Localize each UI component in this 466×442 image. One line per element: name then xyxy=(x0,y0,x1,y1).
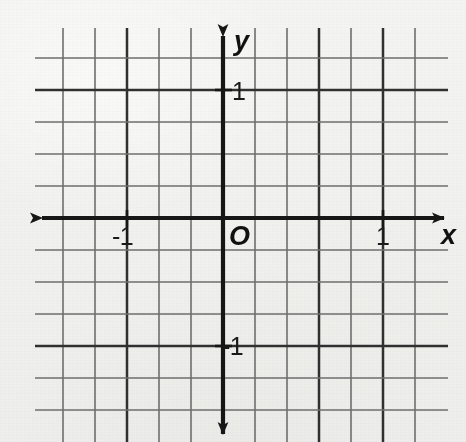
y-tick-label-negative-one: -1 xyxy=(222,334,243,359)
x-axis-label: x xyxy=(441,222,456,249)
y-tick-label-positive-one: 1 xyxy=(232,79,245,104)
coordinate-plane-figure: y x O 1 -1 1 -1 xyxy=(0,0,466,442)
origin-label: O xyxy=(229,223,250,250)
x-tick-label-positive-one: 1 xyxy=(376,224,389,249)
x-tick-label-negative-one: -1 xyxy=(112,224,133,249)
y-axis-label: y xyxy=(234,28,249,55)
